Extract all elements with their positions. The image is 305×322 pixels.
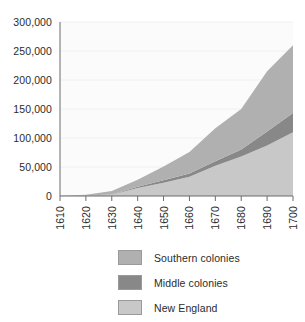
y-axis-tick-label: 150,000 <box>13 103 52 115</box>
y-axis-tick-label: 100,000 <box>13 132 52 144</box>
x-axis-tick-label: 1660 <box>183 206 195 230</box>
legend-swatch-middle-colonies <box>118 275 142 290</box>
x-axis-tick-label: 1620 <box>80 206 92 230</box>
chart-figure: 050,000100,000150,000200,000250,000300,0… <box>0 0 305 322</box>
x-axis-tick-label: 1690 <box>261 206 273 230</box>
x-axis-tick-label: 1670 <box>209 206 221 230</box>
x-axis-tick-label: 1700 <box>287 206 299 230</box>
chart-legend: Southern colonies Middle colonies New En… <box>118 246 298 321</box>
x-axis-tick-labels: 1610162016301640165016601670168016901700 <box>54 206 299 230</box>
x-axis-ticks <box>60 196 293 201</box>
legend-item-middle-colonies: Middle colonies <box>118 271 298 294</box>
x-axis-tick-label: 1630 <box>106 206 118 230</box>
stacked-area-chart: 050,000100,000150,000200,000250,000300,0… <box>0 0 305 240</box>
x-axis-tick-label: 1650 <box>158 206 170 230</box>
y-axis-tick-label: 200,000 <box>13 74 52 86</box>
legend-swatch-southern-colonies <box>118 250 142 265</box>
plot-container: 050,000100,000150,000200,000250,000300,0… <box>0 0 305 240</box>
x-axis-tick-label: 1610 <box>54 206 66 230</box>
legend-item-southern-colonies: Southern colonies <box>118 246 298 269</box>
x-axis-tick-label: 1640 <box>132 206 144 230</box>
y-axis-tick-label: 300,000 <box>13 16 52 28</box>
legend-swatch-new-england <box>118 300 142 315</box>
legend-label-southern-colonies: Southern colonies <box>154 252 240 264</box>
legend-label-middle-colonies: Middle colonies <box>154 277 228 289</box>
legend-label-new-england: New England <box>154 302 218 314</box>
y-axis-tick-label: 50,000 <box>19 161 52 173</box>
y-axis-tick-label: 250,000 <box>13 45 52 57</box>
y-axis-tick-labels: 050,000100,000150,000200,000250,000300,0… <box>13 16 52 202</box>
legend-item-new-england: New England <box>118 296 298 319</box>
x-axis-tick-label: 1680 <box>235 206 247 230</box>
y-axis-tick-label: 0 <box>46 190 52 202</box>
